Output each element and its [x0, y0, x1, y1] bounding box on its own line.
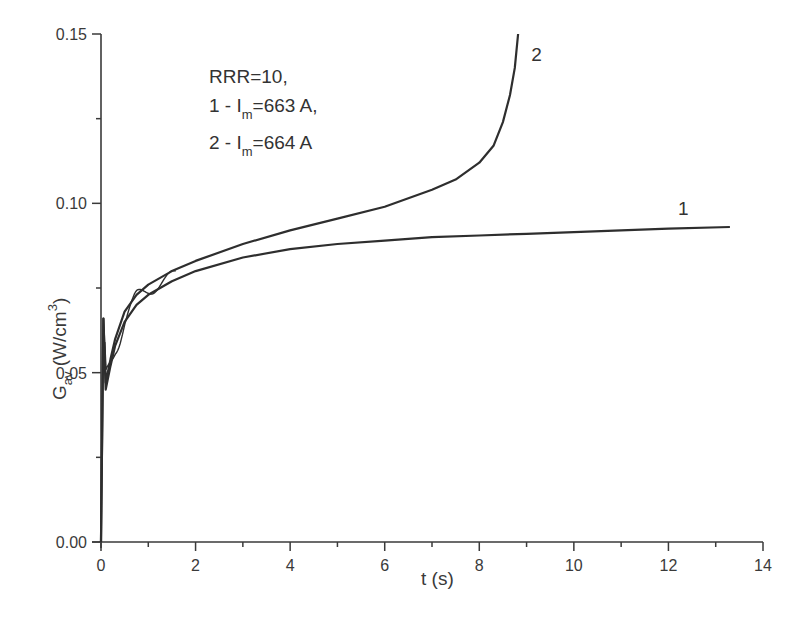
x-tick-label: 6: [380, 557, 389, 574]
x-tick-label: 4: [286, 557, 295, 574]
x-tick-label: 14: [754, 557, 772, 574]
annotation-box: RRR=10, 1 - Im=663 A, 2 - Im=664 A: [209, 66, 318, 159]
x-tick-label: 10: [565, 557, 583, 574]
series-curves: [101, 34, 730, 542]
x-tick-label: 0: [97, 557, 106, 574]
annotation-line-2: 1 - Im=663 A,: [209, 95, 318, 122]
x-axis-title: t (s): [421, 568, 454, 589]
annotation-line-3: 2 - Im=664 A: [209, 132, 313, 159]
x-tick-label: 8: [475, 557, 484, 574]
y-tick-labels: 0.000.050.100.15: [56, 26, 87, 551]
y-tick-label: 0.00: [56, 534, 87, 551]
x-tick-label: 2: [191, 557, 200, 574]
y-tick-label: 0.15: [56, 26, 87, 43]
y-tick-label: 0.10: [56, 195, 87, 212]
chart-canvas: 0.000.050.100.15 02468101214 12 t (s) Ga…: [0, 0, 794, 624]
curve-labels: 12: [531, 44, 688, 219]
x-ticks: [101, 542, 763, 551]
series-1-curve: [101, 227, 730, 542]
axes: [92, 34, 763, 548]
annotation-line-1: RRR=10,: [209, 66, 288, 87]
x-tick-label: 12: [660, 557, 678, 574]
curve-label-1: 1: [678, 198, 689, 219]
y-axis-title: Gav (W/cm3): [45, 298, 75, 400]
curve-label-2: 2: [531, 44, 542, 65]
y-ticks: [92, 34, 101, 542]
